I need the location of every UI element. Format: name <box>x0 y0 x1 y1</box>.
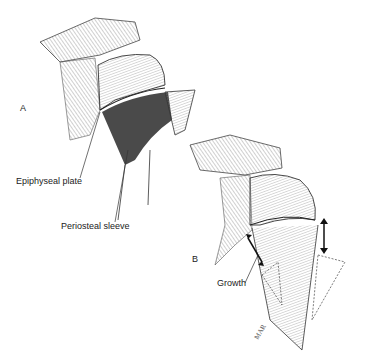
label-periosteal-sleeve: Periosteal sleeve <box>61 222 130 231</box>
panel-label-a: A <box>20 104 26 113</box>
panel-b-drawing: MAR <box>190 135 345 350</box>
label-epiphyseal-plate: Epiphyseal plate <box>16 177 82 186</box>
artist-signature: MAR <box>253 323 268 341</box>
anatomical-illustration: MAR A B Epiphyseal plate Periosteal slee… <box>0 0 368 363</box>
panel-a-drawing <box>40 18 195 222</box>
panel-label-b: B <box>192 255 198 264</box>
label-growth: Growth <box>217 279 246 288</box>
